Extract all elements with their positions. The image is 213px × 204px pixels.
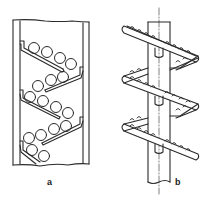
channel-bottom-edge bbox=[13, 164, 89, 166]
spheres bbox=[24, 43, 77, 162]
panel-b bbox=[122, 8, 199, 194]
figure-diagram bbox=[0, 0, 213, 204]
panel-a bbox=[13, 20, 89, 166]
panel-label-b: b bbox=[175, 177, 181, 187]
spiral-turn-1 bbox=[122, 26, 199, 70]
baffle-3 bbox=[20, 90, 60, 119]
panel-label-a: a bbox=[47, 177, 52, 187]
spiral-turn-2 bbox=[122, 58, 199, 118]
baffle-1 bbox=[20, 41, 64, 72]
channel-top-edge bbox=[13, 20, 89, 22]
